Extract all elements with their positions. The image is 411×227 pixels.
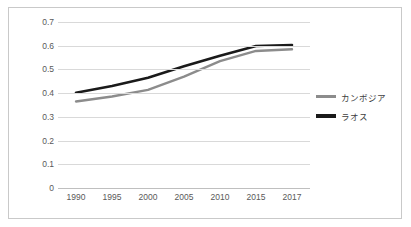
x-axis-tick-label: 1990 <box>67 192 86 202</box>
chart-legend: カンボジアラオス <box>316 88 402 126</box>
series-lines <box>58 22 310 188</box>
y-axis-tick-label: 0.6 <box>14 41 54 51</box>
legend-color-swatch <box>316 95 336 98</box>
gridline <box>58 164 310 165</box>
x-axis-tick-label: 2005 <box>175 192 194 202</box>
y-axis-tick-label: 0 <box>14 183 54 193</box>
y-axis-tick-label: 0.2 <box>14 136 54 146</box>
gridline <box>58 141 310 142</box>
y-axis-tick-label: 0.1 <box>14 159 54 169</box>
y-axis-tick-label: 0.4 <box>14 88 54 98</box>
legend-color-swatch <box>316 114 336 118</box>
gridline <box>58 22 310 23</box>
legend-item-label: カンボジア <box>341 91 386 103</box>
x-axis-tick-label: 2017 <box>283 192 302 202</box>
gridline <box>58 69 310 70</box>
x-axis-tick-label: 2010 <box>211 192 230 202</box>
gridline <box>58 93 310 94</box>
legend-item[interactable]: カンボジア <box>316 88 402 105</box>
y-axis-tick-label: 0.3 <box>14 112 54 122</box>
x-axis-tick-label: 2015 <box>247 192 266 202</box>
chart-container: 00.10.20.30.40.50.60.7 19901995200020052… <box>0 0 411 227</box>
gridline <box>58 117 310 118</box>
x-axis-line <box>58 188 310 189</box>
gridline <box>58 46 310 47</box>
y-axis-tick-label: 0.7 <box>14 17 54 27</box>
y-axis-labels: 00.10.20.30.40.50.60.7 <box>10 22 54 188</box>
legend-item-label: ラオス <box>341 110 368 122</box>
x-axis-tick-label: 2000 <box>139 192 158 202</box>
x-axis-labels: 1990199520002005201020152017 <box>58 190 310 206</box>
y-axis-tick-label: 0.5 <box>14 64 54 74</box>
plot-area <box>58 22 310 188</box>
legend-item[interactable]: ラオス <box>316 107 402 124</box>
x-axis-tick-label: 1995 <box>103 192 122 202</box>
